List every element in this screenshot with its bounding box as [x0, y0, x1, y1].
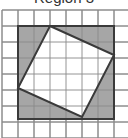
grid-diagram [0, 0, 128, 138]
